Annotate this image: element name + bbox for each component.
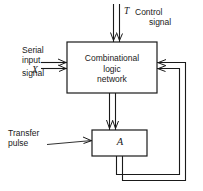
transfer-pulse-line-1: Transfer [8,128,39,138]
x-signal-word: signal [22,68,44,78]
transfer-pulse-line-2: pulse [8,138,28,148]
cln-label-line-1: Combinational [85,53,139,63]
control-signal-line-1: Control [135,7,162,17]
cln-to-a-arrow [107,93,119,130]
control-input-arrow [111,4,123,42]
block-diagram-canvas: .stroke { stroke:#1a1a1a; stroke-width:1… [0,0,203,191]
serial-input-line-2: input [22,55,40,65]
control-signal-symbol: T [124,6,129,16]
transfer-pulse-label: Transferpulse [8,128,39,148]
serial-input-line-1: Serial [22,45,44,55]
register-a-label: A [93,136,147,147]
cln-label-line-2: logic [103,64,120,74]
transfer-pulse-arrow [47,137,92,145]
serial-input-label: Serialinput [22,45,44,65]
combinational-logic-network-label: Combinationallogicnetwork [68,53,156,85]
control-signal-label: Controlsignal [135,7,171,27]
diagram-vector-layer: .stroke { stroke:#1a1a1a; stroke-width:1… [0,0,203,191]
cln-label-line-3: network [97,74,127,84]
control-signal-line-2: signal [135,17,171,27]
serial-input-arrow [41,59,67,72]
